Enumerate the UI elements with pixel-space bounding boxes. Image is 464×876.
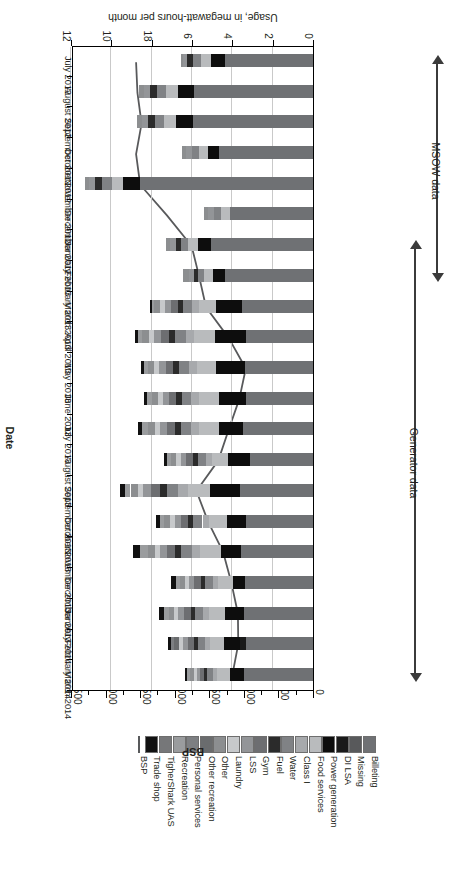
bar-segment[interactable]: [204, 207, 208, 220]
bar-segment[interactable]: [175, 545, 181, 558]
bar-segment[interactable]: [173, 361, 179, 374]
bar-segment[interactable]: [155, 115, 164, 128]
bar-segment[interactable]: [208, 207, 214, 220]
bar-segment[interactable]: [144, 85, 150, 98]
bar-segment[interactable]: [228, 453, 250, 466]
legend-item-power-generation[interactable]: Power generation: [322, 736, 335, 753]
bar-segment[interactable]: [148, 545, 155, 558]
bar-segment[interactable]: [187, 668, 190, 681]
bar-segment[interactable]: [144, 361, 148, 374]
bar-segment[interactable]: [163, 392, 169, 405]
bar-segment[interactable]: [204, 668, 207, 681]
bar-segment[interactable]: [213, 668, 216, 681]
bar-segment[interactable]: [188, 515, 193, 528]
bar-segment[interactable]: [194, 85, 313, 98]
bar-segment[interactable]: [230, 668, 245, 681]
bar-segment[interactable]: [189, 361, 197, 374]
bar-segment[interactable]: [144, 392, 148, 405]
bar-segment[interactable]: [138, 484, 144, 497]
bar-segment[interactable]: [164, 607, 169, 620]
bar-row[interactable]: [71, 392, 313, 405]
bar-segment[interactable]: [154, 361, 159, 374]
bar-segment[interactable]: [166, 85, 178, 98]
bar-segment[interactable]: [143, 484, 151, 497]
bar-segment[interactable]: [214, 207, 221, 220]
bar-segment[interactable]: [174, 637, 178, 650]
bar-segment[interactable]: [209, 607, 225, 620]
bar-segment[interactable]: [102, 177, 112, 190]
bar-segment[interactable]: [210, 637, 224, 650]
bar-segment[interactable]: [230, 207, 313, 220]
bar-segment[interactable]: [178, 85, 194, 98]
bar-segment[interactable]: [188, 637, 194, 650]
bar-segment[interactable]: [148, 361, 154, 374]
bar-segment[interactable]: [201, 576, 205, 589]
bar-segment[interactable]: [219, 146, 313, 159]
bar-segment[interactable]: [141, 361, 144, 374]
bar-segment[interactable]: [164, 115, 176, 128]
bar-row[interactable]: [71, 177, 313, 190]
bar-segment[interactable]: [194, 269, 198, 282]
bar-segment[interactable]: [167, 422, 175, 435]
bar-segment[interactable]: [170, 238, 176, 251]
bar-segment[interactable]: [192, 300, 199, 313]
bar-row[interactable]: [71, 361, 313, 374]
bar-segment[interactable]: [194, 637, 198, 650]
bar-segment[interactable]: [250, 453, 313, 466]
bar-segment[interactable]: [150, 85, 157, 98]
bar-segment[interactable]: [152, 392, 158, 405]
bar-segment[interactable]: [188, 238, 198, 251]
bar-segment[interactable]: [191, 392, 199, 405]
bar-row[interactable]: [71, 115, 313, 128]
bar-segment[interactable]: [164, 515, 170, 528]
bar-segment[interactable]: [159, 607, 164, 620]
bar-segment[interactable]: [211, 238, 313, 251]
bar-segment[interactable]: [198, 269, 204, 282]
bar-segment[interactable]: [212, 453, 228, 466]
bar-segment[interactable]: [216, 361, 245, 374]
bar-segment[interactable]: [243, 422, 313, 435]
bar-segment[interactable]: [176, 238, 181, 251]
bar-segment[interactable]: [198, 637, 205, 650]
bar-segment[interactable]: [190, 668, 194, 681]
bar-segment[interactable]: [155, 422, 160, 435]
bar-segment[interactable]: [171, 637, 174, 650]
bar-segment[interactable]: [227, 515, 246, 528]
bar-segment[interactable]: [201, 54, 211, 67]
bar-segment[interactable]: [167, 453, 171, 466]
bar-segment[interactable]: [215, 330, 246, 343]
legend-item-missing[interactable]: Missing: [349, 736, 362, 753]
bar-row[interactable]: [71, 300, 313, 313]
bar-segment[interactable]: [112, 177, 123, 190]
bar-segment[interactable]: [165, 300, 171, 313]
bar-segment[interactable]: [198, 453, 206, 466]
bar-segment[interactable]: [181, 545, 191, 558]
bar-segment[interactable]: [194, 330, 215, 343]
bar-segment[interactable]: [152, 300, 155, 313]
bar-segment[interactable]: [189, 576, 194, 589]
bar-segment[interactable]: [160, 545, 167, 558]
bar-segment[interactable]: [142, 115, 148, 128]
bar-segment[interactable]: [142, 422, 148, 435]
bar-segment[interactable]: [192, 146, 199, 159]
bar-segment[interactable]: [205, 576, 213, 589]
bar-segment[interactable]: [178, 484, 188, 497]
bar-segment[interactable]: [137, 115, 142, 128]
bar-segment[interactable]: [186, 330, 194, 343]
bar-segment[interactable]: [241, 545, 313, 558]
bar-segment[interactable]: [176, 392, 182, 405]
bar-segment[interactable]: [89, 177, 95, 190]
bar-segment[interactable]: [224, 637, 241, 650]
bar-segment[interactable]: [181, 453, 187, 466]
bar-segment[interactable]: [164, 453, 167, 466]
bar-segment[interactable]: [217, 668, 230, 681]
bar-segment[interactable]: [207, 668, 213, 681]
bar-row[interactable]: [71, 238, 313, 251]
bar-segment[interactable]: [169, 330, 175, 343]
bar-segment[interactable]: [155, 545, 160, 558]
bar-segment[interactable]: [131, 484, 138, 497]
bar-segment[interactable]: [203, 607, 209, 620]
bar-segment[interactable]: [185, 576, 189, 589]
bar-segment[interactable]: [169, 607, 174, 620]
bar-segment[interactable]: [179, 637, 183, 650]
